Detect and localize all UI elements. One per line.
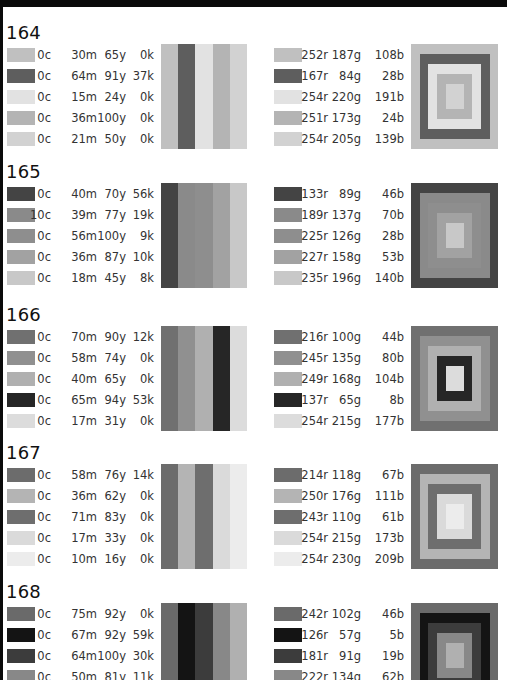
square-ring xyxy=(446,366,464,391)
color-swatch xyxy=(7,489,35,503)
rgb-r-value: 227r xyxy=(301,250,328,264)
rgb-b-value: 70b xyxy=(382,208,404,222)
stripe xyxy=(161,44,178,149)
color-swatch xyxy=(7,628,35,642)
rgb-row: 254r220g191b xyxy=(274,90,404,104)
cmyk-m-value: 17m xyxy=(71,414,97,428)
cmyk-y-value: 45y xyxy=(105,271,126,285)
color-swatch xyxy=(7,69,35,83)
square-ring xyxy=(446,643,464,668)
rgb-g-value: 102g xyxy=(332,607,361,621)
rgb-b-value: 173b xyxy=(375,531,404,545)
color-swatch xyxy=(274,330,302,344)
rgb-g-value: 57g xyxy=(339,628,361,642)
color-swatch xyxy=(274,393,302,407)
color-swatch xyxy=(7,414,35,428)
color-swatch xyxy=(274,90,302,104)
stripe xyxy=(230,326,247,431)
stripe xyxy=(178,183,195,288)
cmyk-y-value: 83y xyxy=(105,510,126,524)
cmyk-k-value: 0k xyxy=(140,510,154,524)
rgb-g-value: 230g xyxy=(332,552,361,566)
palette-section-164: 1640c30m65y0k0c64m91y37k0c15m24y0k0c36m1… xyxy=(0,24,507,164)
cmyk-c-value: 10c xyxy=(30,208,51,222)
rgb-b-value: 177b xyxy=(375,414,404,428)
color-swatch xyxy=(7,132,35,146)
cmyk-m-value: 40m xyxy=(71,187,97,201)
cmyk-row: 0c56m100y9k xyxy=(0,229,160,243)
stripe xyxy=(213,464,230,569)
rgb-g-value: 84g xyxy=(339,69,361,83)
rgb-row: 167r84g28b xyxy=(274,69,404,83)
cmyk-c-value: 0c xyxy=(37,468,51,482)
cmyk-k-value: 0k xyxy=(140,414,154,428)
cmyk-k-value: 0k xyxy=(140,48,154,62)
cmyk-y-value: 33y xyxy=(105,531,126,545)
rgb-row: 189r137g70b xyxy=(274,208,404,222)
color-swatch xyxy=(274,628,302,642)
color-swatch xyxy=(274,271,302,285)
color-swatch xyxy=(274,208,302,222)
rgb-b-value: 209b xyxy=(375,552,404,566)
color-swatch xyxy=(7,271,35,285)
stripe xyxy=(161,183,178,288)
cmyk-row: 0c50m81y11k xyxy=(0,670,160,680)
cmyk-c-value: 0c xyxy=(37,489,51,503)
rgb-row: 216r100g44b xyxy=(274,330,404,344)
color-swatch xyxy=(274,468,302,482)
cmyk-c-value: 0c xyxy=(37,393,51,407)
cmyk-m-value: 36m xyxy=(71,111,97,125)
cmyk-y-value: 77y xyxy=(105,208,126,222)
rgb-b-value: 5b xyxy=(389,628,404,642)
color-swatch xyxy=(274,187,302,201)
stripe xyxy=(178,326,195,431)
cmyk-row: 0c21m50y0k xyxy=(0,132,160,146)
rgb-r-value: 225r xyxy=(301,229,328,243)
stripe xyxy=(195,464,212,569)
cmyk-c-value: 0c xyxy=(37,628,51,642)
palette-number: 164 xyxy=(6,24,41,42)
stripe-preview xyxy=(161,603,247,680)
stripe xyxy=(178,464,195,569)
rgb-g-value: 215g xyxy=(332,414,361,428)
rgb-g-value: 135g xyxy=(332,351,361,365)
cmyk-c-value: 0c xyxy=(37,330,51,344)
rgb-r-value: 254r xyxy=(301,552,328,566)
cmyk-c-value: 0c xyxy=(37,132,51,146)
cmyk-c-value: 0c xyxy=(37,414,51,428)
cmyk-y-value: 74y xyxy=(105,351,126,365)
cmyk-c-value: 0c xyxy=(37,372,51,386)
stripe xyxy=(195,183,212,288)
cmyk-m-value: 70m xyxy=(71,330,97,344)
cmyk-row: 0c15m24y0k xyxy=(0,90,160,104)
cmyk-c-value: 0c xyxy=(37,670,51,680)
rgb-b-value: 191b xyxy=(375,90,404,104)
cmyk-y-value: 92y xyxy=(105,607,126,621)
cmyk-y-value: 100y xyxy=(97,229,126,243)
cmyk-m-value: 58m xyxy=(71,468,97,482)
color-swatch xyxy=(274,132,302,146)
stripe xyxy=(178,44,195,149)
cmyk-row: 0c10m16y0k xyxy=(0,552,160,566)
nested-squares-preview xyxy=(411,44,498,149)
color-swatch xyxy=(7,607,35,621)
rgb-r-value: 133r xyxy=(301,187,328,201)
cmyk-k-value: 30k xyxy=(133,649,154,663)
color-swatch xyxy=(274,250,302,264)
stripe xyxy=(230,183,247,288)
cmyk-y-value: 70y xyxy=(105,187,126,201)
cmyk-m-value: 65m xyxy=(71,393,97,407)
rgb-r-value: 251r xyxy=(301,111,328,125)
cmyk-y-value: 100y xyxy=(97,111,126,125)
cmyk-c-value: 0c xyxy=(37,531,51,545)
rgb-r-value: 235r xyxy=(301,271,328,285)
color-swatch xyxy=(274,229,302,243)
rgb-row: 254r215g177b xyxy=(274,414,404,428)
rgb-b-value: 46b xyxy=(382,187,404,201)
rgb-row: 243r110g61b xyxy=(274,510,404,524)
cmyk-k-value: 0k xyxy=(140,90,154,104)
rgb-row: 227r158g53b xyxy=(274,250,404,264)
rgb-r-value: 243r xyxy=(301,510,328,524)
cmyk-k-value: 59k xyxy=(133,628,154,642)
cmyk-k-value: 37k xyxy=(133,69,154,83)
